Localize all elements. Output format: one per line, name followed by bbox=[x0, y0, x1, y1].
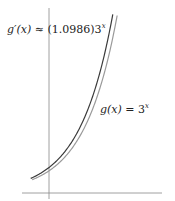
function-label: g(x) = 3x bbox=[100, 102, 149, 116]
approx-symbol: ≈ bbox=[35, 23, 44, 36]
function-lhs: g(x) bbox=[100, 103, 122, 116]
derivative-label: g′(x) ≈ (1.0986)3x bbox=[7, 22, 106, 36]
equals-symbol: = bbox=[125, 103, 134, 116]
function-curve bbox=[32, 16, 117, 180]
derivative-coefficient: (1.0986)3 bbox=[48, 23, 102, 36]
function-exponent: x bbox=[145, 102, 149, 110]
function-base: 3 bbox=[138, 103, 145, 116]
derivative-lhs: g′(x) bbox=[7, 23, 31, 36]
derivative-curve bbox=[31, 14, 113, 178]
derivative-exponent: x bbox=[102, 22, 106, 30]
